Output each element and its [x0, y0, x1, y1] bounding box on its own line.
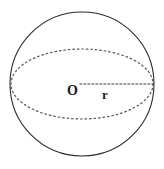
- sphere-diagram-canvas: [0, 0, 164, 169]
- sphere-diagram: O r: [0, 0, 164, 169]
- radius-label: r: [102, 88, 108, 101]
- center-point-label: O: [67, 84, 78, 98]
